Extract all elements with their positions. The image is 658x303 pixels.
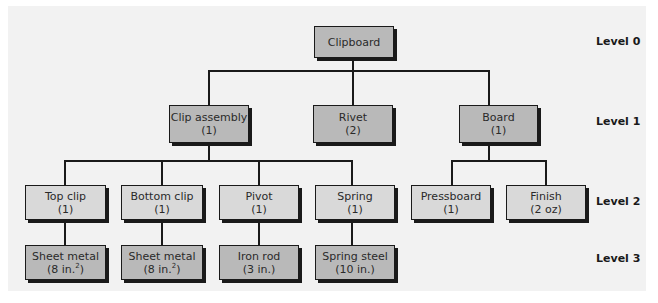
- node-clip-assembly: Clip assembly (1): [169, 105, 249, 143]
- node-label: Finish: [530, 190, 561, 203]
- connector: [64, 220, 66, 245]
- node-qty: (2 oz): [530, 203, 562, 216]
- connector: [351, 160, 353, 185]
- node-label: Spring steel: [322, 250, 388, 263]
- node-label: Top clip: [45, 190, 86, 203]
- node-qty: (1): [58, 203, 74, 216]
- connector: [161, 220, 163, 245]
- level-2-label: Level 2: [596, 195, 640, 208]
- connector: [161, 160, 163, 185]
- connector: [451, 160, 547, 162]
- node-finish: Finish (2 oz): [506, 185, 586, 220]
- node-sheet-metal-2: Sheet metal (8 in.2): [121, 245, 203, 280]
- connector: [208, 70, 489, 72]
- node-qty: (2): [345, 124, 361, 137]
- node-spring-steel: Spring steel (10 in.): [315, 245, 395, 280]
- connector: [208, 143, 210, 161]
- node-qty: (1): [491, 124, 507, 137]
- node-qty: (1): [201, 124, 217, 137]
- node-label: Iron rod: [238, 250, 281, 263]
- connector: [488, 143, 490, 161]
- connector: [488, 70, 490, 105]
- node-spring: Spring (1): [315, 185, 395, 220]
- node-clipboard: Clipboard: [314, 26, 394, 58]
- connector: [451, 160, 453, 185]
- connector: [258, 160, 260, 185]
- level-0-label: Level 0: [596, 35, 640, 48]
- node-label: Bottom clip: [131, 190, 194, 203]
- node-sheet-metal-1: Sheet metal (8 in.2): [25, 245, 106, 280]
- node-label: Clipboard: [328, 36, 381, 49]
- node-qty: (10 in.): [335, 263, 375, 276]
- node-label: Sheet metal: [32, 250, 99, 263]
- node-bottom-clip: Bottom clip (1): [121, 185, 203, 220]
- connector: [208, 70, 210, 105]
- node-qty: (1): [347, 203, 363, 216]
- node-qty: (1): [251, 203, 267, 216]
- connector: [352, 70, 354, 105]
- node-label: Pivot: [245, 190, 272, 203]
- node-label: Board: [482, 111, 514, 124]
- node-label: Spring: [337, 190, 373, 203]
- connector: [64, 160, 353, 162]
- node-qty: (3 in.): [243, 263, 276, 276]
- node-qty: (8 in.2): [47, 263, 84, 276]
- connector: [545, 160, 547, 185]
- node-qty: (8 in.2): [143, 263, 180, 276]
- node-label: Rivet: [339, 111, 367, 124]
- node-qty: (1): [443, 203, 459, 216]
- node-top-clip: Top clip (1): [25, 185, 106, 220]
- connector: [351, 220, 353, 245]
- node-rivet: Rivet (2): [313, 105, 393, 143]
- node-pressboard: Pressboard (1): [411, 185, 491, 220]
- node-label: Pressboard: [421, 190, 482, 203]
- level-3-label: Level 3: [596, 252, 640, 265]
- node-label: Clip assembly: [171, 111, 248, 124]
- node-iron-rod: Iron rod (3 in.): [219, 245, 299, 280]
- connector: [258, 220, 260, 245]
- connector: [64, 160, 66, 185]
- node-qty: (1): [154, 203, 170, 216]
- node-board: Board (1): [459, 105, 538, 143]
- level-1-label: Level 1: [596, 115, 640, 128]
- node-pivot: Pivot (1): [219, 185, 299, 220]
- node-label: Sheet metal: [129, 250, 196, 263]
